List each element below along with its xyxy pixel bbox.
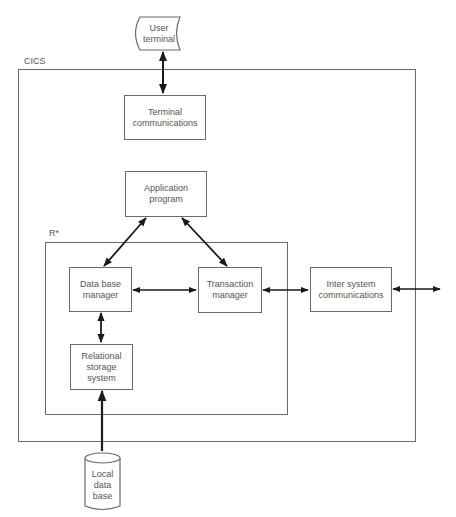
application-program-node: Application program [125,171,207,217]
local-data-base-node: Local data base [85,465,120,505]
connector-lines [0,0,456,517]
inter-system-communications-node: Inter system communications [310,267,392,312]
cics-rstar-architecture-diagram: CICS R* User terminal Term [0,0,456,517]
edge-app-tm [182,218,227,266]
edge-app-dbm [104,218,146,266]
terminal-communications-node: Terminal communications [124,95,206,140]
relational-storage-system-node: Relational storage system [70,344,133,390]
transaction-manager-node: Transaction manager [198,267,262,313]
data-base-manager-node: Data base manager [69,267,132,312]
local-database-cylinder-top [85,453,120,463]
user-terminal-node: User terminal [135,17,183,50]
